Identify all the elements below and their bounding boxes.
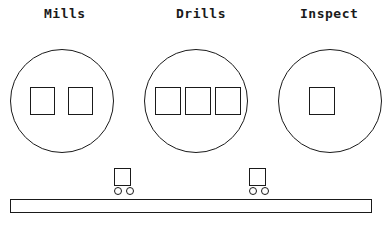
machine-box-inspect-1[interactable] (309, 87, 335, 115)
station-circle-mills[interactable] (10, 49, 114, 153)
conveyor-belt[interactable] (10, 199, 372, 213)
machine-box-drills-2[interactable] (185, 87, 211, 115)
machine-box-drills-1[interactable] (155, 87, 181, 115)
factory-layout-diagram: Mills Drills Inspect (0, 0, 385, 232)
cart-wheel-icon (126, 187, 134, 195)
cart-body-icon (249, 168, 266, 186)
machine-box-mills-2[interactable] (68, 87, 93, 115)
cart-body-icon (114, 168, 131, 186)
machine-box-drills-3[interactable] (215, 87, 241, 115)
cart-wheel-icon (261, 187, 269, 195)
station-label-drills: Drills (176, 6, 226, 22)
cart-wheel-icon (114, 187, 122, 195)
cart-wheel-icon (249, 187, 257, 195)
machine-box-mills-1[interactable] (30, 87, 55, 115)
station-label-mills: Mills (44, 6, 86, 22)
station-label-inspect: Inspect (300, 6, 358, 22)
